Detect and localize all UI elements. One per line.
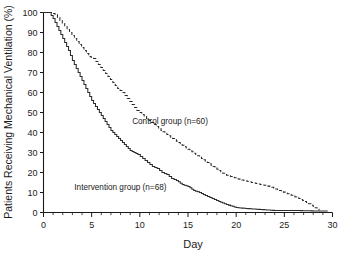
y-tick-label: 50 — [27, 108, 37, 118]
y-tick-label: 20 — [27, 168, 37, 178]
series-curves — [44, 13, 328, 211]
x-tick-label: 30 — [327, 220, 337, 230]
y-tick-label: 60 — [27, 88, 37, 98]
series-label-1: Intervention group (n=68) — [74, 183, 166, 192]
series-line-1 — [44, 13, 328, 211]
x-axis-title: Day — [183, 238, 203, 250]
y-axis-title: Patients Receiving Mechanical Ventilatio… — [2, 5, 14, 219]
y-tick-label: 100 — [22, 8, 37, 18]
y-tick-label: 10 — [27, 188, 37, 198]
chart-figure: 0102030405060708090100051015202530 Inter… — [0, 0, 344, 266]
x-tick-label: 5 — [89, 220, 94, 230]
x-tick-label: 0 — [41, 220, 46, 230]
y-tick-label: 40 — [27, 128, 37, 138]
y-tick-label: 90 — [27, 28, 37, 38]
y-tick-label: 80 — [27, 48, 37, 58]
series-annotations: Intervention group (n=68)Control group (… — [74, 117, 208, 192]
x-tick-label: 10 — [135, 220, 145, 230]
series-line-2 — [44, 13, 320, 211]
x-tick-label: 25 — [279, 220, 289, 230]
survival-curve-chart: 0102030405060708090100051015202530 Inter… — [0, 0, 344, 266]
y-tick-label: 70 — [27, 68, 37, 78]
y-tick-label: 30 — [27, 148, 37, 158]
x-tick-label: 20 — [231, 220, 241, 230]
y-tick-label: 0 — [32, 208, 37, 218]
series-label-2: Control group (n=60) — [132, 117, 208, 126]
x-tick-label: 15 — [183, 220, 193, 230]
